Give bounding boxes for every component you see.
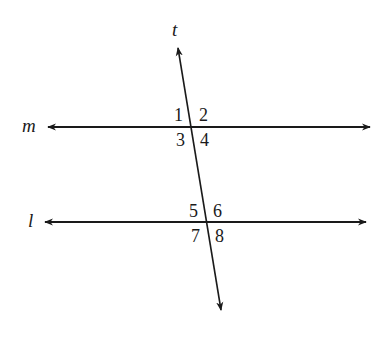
angle-1: 1 — [174, 106, 183, 124]
angle-8: 8 — [215, 227, 224, 245]
label-line-l: l — [28, 211, 33, 230]
angle-6: 6 — [213, 202, 222, 220]
diagram-canvas — [0, 0, 389, 338]
angle-5: 5 — [189, 202, 198, 220]
angle-2: 2 — [199, 106, 208, 124]
angle-3: 3 — [176, 131, 185, 149]
label-line-t: t — [172, 20, 177, 39]
line-t-transversal — [178, 48, 221, 310]
angle-7: 7 — [191, 227, 200, 245]
angle-4: 4 — [200, 131, 209, 149]
label-line-m: m — [22, 116, 36, 135]
